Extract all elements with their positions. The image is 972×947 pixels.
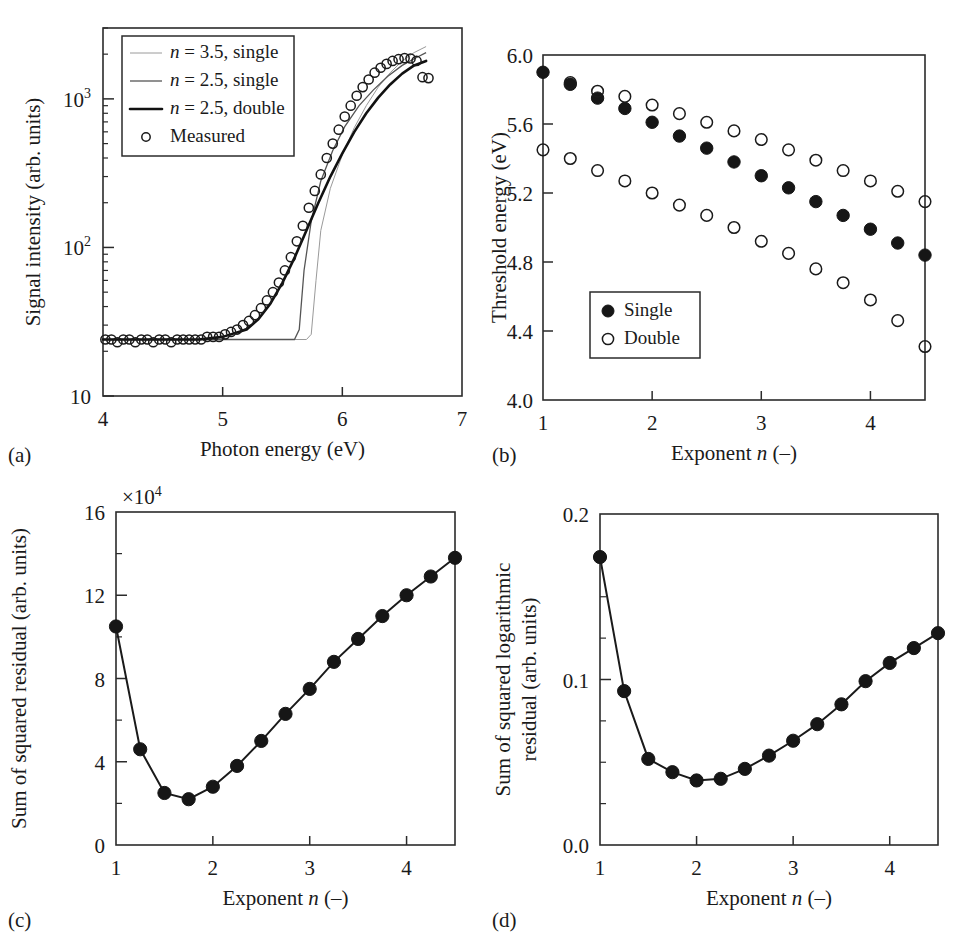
x-axis-title: Photon energy (eV)	[200, 437, 365, 461]
x-tick-label: 3	[304, 856, 315, 880]
x-axis-title: Exponent n (–)	[671, 441, 797, 465]
data-point	[787, 734, 800, 747]
y-tick-label: 0.2	[563, 503, 589, 527]
x-tick-label: 4	[865, 411, 876, 435]
data-point	[303, 682, 316, 695]
data-point	[728, 156, 740, 168]
legend-label: Double	[624, 327, 680, 348]
data-point	[883, 656, 896, 669]
x-tick-label: 4	[401, 856, 412, 880]
data-point	[701, 142, 713, 154]
data-point	[255, 734, 268, 747]
y-offset-label: ×104	[122, 484, 162, 509]
data-point	[859, 675, 872, 688]
x-tick-label: 2	[691, 856, 702, 880]
data-point	[424, 570, 437, 583]
legend-label: n = 3.5, single	[170, 41, 278, 62]
data-point	[158, 786, 171, 799]
data-point	[593, 550, 606, 563]
legend-label: n = 2.5, single	[170, 69, 278, 90]
data-point	[811, 718, 824, 731]
data-point	[352, 632, 365, 645]
x-tick-label: 1	[595, 856, 606, 880]
x-tick-label: 2	[647, 411, 658, 435]
y-axis-title: Signal intensity (arb. units)	[21, 98, 45, 327]
x-tick-label: 4	[98, 407, 109, 431]
y-tick-label: 4	[95, 751, 106, 775]
data-point	[591, 92, 603, 104]
data-point	[619, 102, 631, 114]
data-point	[810, 195, 822, 207]
legend-label: n = 2.5, double	[170, 97, 285, 118]
x-tick-label: 5	[217, 407, 228, 431]
data-point	[738, 762, 751, 775]
y-axis-title-line2: residual (arb. units)	[517, 598, 541, 762]
legend-marker-filled-circle	[602, 305, 614, 317]
figure-container: 456710102103Photon energy (eV)Signal int…	[0, 0, 972, 947]
x-tick-label: 2	[208, 856, 219, 880]
x-tick-label: 1	[538, 411, 549, 435]
panel-d-label: (d)	[492, 908, 517, 932]
data-point	[642, 752, 655, 765]
data-point	[448, 551, 461, 564]
panel-a: 456710102103Photon energy (eV)Signal int…	[0, 0, 490, 472]
data-point	[892, 237, 904, 249]
plot-frame	[600, 514, 938, 845]
data-point	[690, 774, 703, 787]
y-tick-label: 4.0	[507, 389, 533, 413]
y-tick-label: 0	[95, 834, 106, 858]
data-point	[279, 707, 292, 720]
data-point	[206, 780, 219, 793]
data-point	[646, 116, 658, 128]
y-tick-label: 10	[70, 385, 91, 409]
data-point	[327, 655, 340, 668]
panel-b-svg: 12344.04.44.85.25.66.0Exponent n (–)Thre…	[490, 0, 972, 472]
y-tick-label: 102	[63, 234, 91, 260]
x-tick-label: 3	[756, 411, 767, 435]
x-tick-label: 3	[788, 856, 799, 880]
y-tick-label: 12	[84, 584, 105, 608]
x-tick-label: 4	[884, 856, 895, 880]
panel-b-label: (b)	[492, 443, 517, 467]
data-point	[376, 609, 389, 622]
data-point	[666, 766, 679, 779]
panel-c-label: (c)	[8, 908, 31, 932]
x-axis-title: Exponent n (–)	[223, 886, 349, 910]
y-axis-title-line1: Sum of squared logarithmic	[491, 563, 515, 797]
panel-d: 12340.00.10.2Exponent n (–)Sum of square…	[490, 472, 972, 947]
y-tick-label: 0.1	[563, 669, 589, 693]
y-tick-label: 6.0	[507, 44, 533, 68]
y-axis-title: Sum of squared residual (arb. units)	[7, 528, 31, 829]
data-point	[537, 66, 549, 78]
data-point	[618, 684, 631, 697]
data-point	[230, 759, 243, 772]
panel-d-svg: 12340.00.10.2Exponent n (–)Sum of square…	[490, 472, 972, 947]
data-point	[782, 182, 794, 194]
panel-b: 12344.04.44.85.25.66.0Exponent n (–)Thre…	[490, 0, 972, 472]
x-tick-label: 7	[457, 407, 468, 431]
x-axis-title: Exponent n (–)	[706, 886, 832, 910]
y-tick-label: 103	[63, 86, 91, 112]
panel-a-label: (a)	[8, 443, 31, 467]
data-point	[907, 641, 920, 654]
panel-a-svg: 456710102103Photon energy (eV)Signal int…	[0, 0, 490, 472]
y-tick-label: 16	[84, 501, 105, 525]
legend-label: Measured	[170, 125, 245, 146]
legend-label: Single	[624, 299, 673, 320]
data-point	[762, 749, 775, 762]
y-tick-label: 0.0	[563, 834, 589, 858]
panel-c-svg: 12340481216Exponent n (–)×104Sum of squa…	[0, 472, 490, 947]
data-point	[919, 249, 931, 261]
data-point	[755, 170, 767, 182]
x-tick-label: 1	[111, 856, 122, 880]
data-point	[109, 620, 122, 633]
data-point	[931, 627, 944, 640]
y-tick-label: 8	[95, 668, 106, 692]
y-axis-title: Threshold energy (eV)	[490, 132, 511, 323]
data-point	[134, 743, 147, 756]
data-point	[835, 698, 848, 711]
data-point	[864, 223, 876, 235]
data-point	[837, 209, 849, 221]
data-point	[714, 772, 727, 785]
data-point	[400, 589, 413, 602]
